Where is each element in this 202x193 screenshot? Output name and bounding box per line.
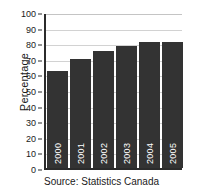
y-axis-tick-mark <box>38 76 42 77</box>
y-axis-tick-label: 100 <box>21 10 36 19</box>
y-axis-tick-label: 50 <box>26 88 36 97</box>
bar: 2000 <box>47 71 68 168</box>
y-axis-tick-label: 40 <box>26 103 36 112</box>
y-axis-tick-mark <box>38 92 42 93</box>
y-axis-tick-mark <box>38 60 42 61</box>
bar-category-label: 2001 <box>76 143 85 164</box>
bar-series: 200020012002200320042005 <box>46 14 182 168</box>
y-axis-tick-label: 20 <box>26 134 36 143</box>
bar-chart-figure: Percentage 0102030405060708090100 200020… <box>0 0 202 193</box>
y-axis-tick-label: 60 <box>26 72 36 81</box>
source-caption: Source: Statistics Canada <box>44 176 200 188</box>
y-axis-tick-mark <box>38 107 42 108</box>
y-axis-tick-label: 90 <box>26 25 36 34</box>
bar-category-label: 2000 <box>53 143 62 164</box>
bar: 2002 <box>93 51 114 168</box>
plot-area: 200020012002200320042005 <box>44 14 182 170</box>
y-axis-tick-mark <box>38 154 42 155</box>
bar: 2004 <box>139 42 160 168</box>
y-axis-tick-label: 0 <box>31 166 36 175</box>
bar-category-label: 2005 <box>168 143 177 164</box>
y-axis-tick-mark <box>38 170 42 171</box>
bar: 2003 <box>116 46 137 168</box>
y-axis-tick-mark <box>38 29 42 30</box>
bar: 2005 <box>162 42 183 168</box>
y-axis-tick-labels: 0102030405060708090100 <box>0 14 42 170</box>
y-axis-tick-mark <box>38 14 42 15</box>
bar-category-label: 2003 <box>122 143 131 164</box>
y-axis-tick-mark <box>38 138 42 139</box>
y-axis-tick-label: 10 <box>26 150 36 159</box>
bar: 2001 <box>70 59 91 168</box>
y-axis-tick-label: 70 <box>26 56 36 65</box>
bar-category-label: 2004 <box>145 143 154 164</box>
y-axis-tick-mark <box>38 123 42 124</box>
bar-category-label: 2002 <box>99 143 108 164</box>
y-axis-tick-mark <box>38 45 42 46</box>
y-axis-tick-label: 80 <box>26 41 36 50</box>
y-axis-tick-label: 30 <box>26 119 36 128</box>
